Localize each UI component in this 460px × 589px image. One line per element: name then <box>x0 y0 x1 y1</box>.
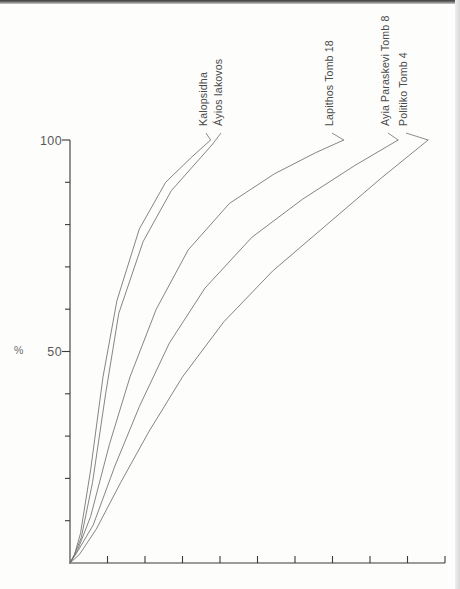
leader-line-4 <box>406 133 428 140</box>
series-label-lapithos-tomb-18: Lapithos Tomb 18 <box>323 40 335 126</box>
y-axis-ticks <box>62 140 70 521</box>
series-label-ayia-paraskevi-tomb-8: Ayia Paraskevi Tomb 8 <box>379 15 391 126</box>
label-leader-lines <box>206 133 428 144</box>
x-axis-ticks <box>108 556 446 563</box>
y-axis-title: % <box>14 344 23 356</box>
series-label-politiko-tomb-4: Politiko Tomb 4 <box>397 52 409 126</box>
y-tick-label-50: 50 <box>47 345 62 359</box>
curve-lapithos-tomb-18 <box>70 140 344 563</box>
curve-politiko-tomb-4 <box>70 140 428 563</box>
series-curves <box>70 140 428 563</box>
leader-line-1 <box>213 133 222 144</box>
figure-page: 100 50 % Kalopsidha Áyios Iakovos Lapith… <box>0 0 460 589</box>
curve-ayios-iakovos <box>70 144 213 563</box>
leader-line-0 <box>206 133 211 140</box>
curve-ayia-paraskevi-tomb-8 <box>70 140 398 563</box>
cumulative-frequency-chart: 100 50 % Kalopsidha Áyios Iakovos Lapith… <box>0 0 460 589</box>
series-label-ayios-iakovos: Áyios Iakovos <box>212 59 224 126</box>
leader-line-2 <box>332 133 344 140</box>
y-tick-label-100: 100 <box>40 134 62 148</box>
curve-kalopsidha <box>70 140 211 563</box>
leader-line-3 <box>388 133 398 140</box>
series-label-kalopsidha: Kalopsidha <box>197 72 209 126</box>
